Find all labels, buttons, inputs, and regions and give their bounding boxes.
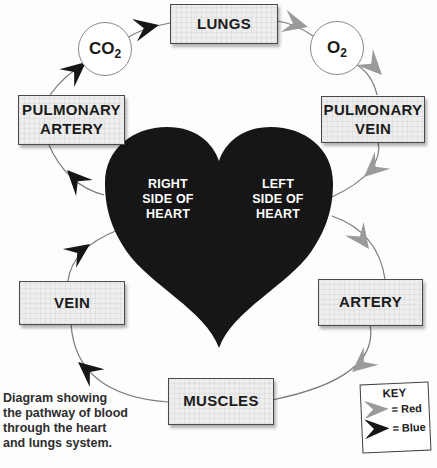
flow-line-vein-to-heart — [68, 230, 118, 281]
flow-arrow-heart-to-pulmonary-artery-icon — [59, 162, 93, 196]
blue-arrow-icon — [363, 418, 391, 439]
node-o2-circle: O2 — [310, 21, 364, 75]
node-lungs: LUNGS — [170, 4, 278, 44]
node-pulmonary-artery-label-line1: PULMONARY — [22, 101, 121, 120]
node-vein-label: VEIN — [54, 294, 90, 313]
node-muscles: MUSCLES — [168, 378, 274, 425]
heart-shape — [105, 127, 333, 348]
flow-arrow-heart-to-artery-icon — [345, 222, 378, 256]
node-vein: VEIN — [19, 281, 125, 325]
flow-arrow-pulmonary-vein-to-heart-icon — [356, 152, 390, 186]
flow-arrow-artery-to-muscles-icon — [345, 347, 379, 381]
key-legend: KEY = Red = Blue — [360, 382, 432, 454]
caption-line: Diagram showing — [3, 391, 128, 406]
node-pulmonary-vein-label-line2: VEIN — [355, 120, 391, 139]
caption-line: and lungs system. — [3, 436, 128, 451]
flow-line-artery-to-muscles — [272, 324, 371, 400]
flow-arrow-lungs-to-o2-icon — [281, 10, 311, 38]
heart-left-side-label: LEFT SIDE OF HEART — [245, 177, 311, 222]
caption-line: the pathway of blood — [3, 406, 128, 421]
flow-arrow-co2-to-lungs-icon — [132, 14, 161, 42]
node-co2-circle: CO2 — [78, 22, 132, 76]
node-pulmonary-artery-label-line2: ARTERY — [40, 120, 103, 139]
diagram-caption: Diagram showing the pathway of blood thr… — [3, 391, 128, 451]
caption-line: through the heart — [3, 421, 128, 436]
flow-arrow-muscles-to-vein-icon — [71, 353, 105, 387]
co2-label: CO2 — [89, 39, 121, 59]
o2-label: O2 — [327, 38, 347, 58]
flow-line-heart-to-artery — [332, 216, 385, 279]
flow-arrow-vein-to-heart-icon — [63, 235, 97, 268]
key-row-red: = Red — [361, 399, 429, 419]
node-pulmonary-vein: PULMONARY VEIN — [321, 96, 425, 143]
node-artery: ARTERY — [318, 279, 423, 326]
node-artery-label: ARTERY — [339, 293, 402, 312]
key-blue-label: = Blue — [392, 421, 426, 434]
key-red-label: = Red — [391, 401, 422, 414]
red-arrow-icon — [362, 400, 390, 418]
node-pulmonary-vein-label-line1: PULMONARY — [324, 101, 423, 120]
node-lungs-label: LUNGS — [197, 15, 251, 34]
node-muscles-label: MUSCLES — [183, 392, 258, 411]
diagram-canvas: LUNGS PULMONARY ARTERY PULMONARY VEIN VE… — [0, 0, 437, 468]
node-pulmonary-artery: PULMONARY ARTERY — [18, 95, 125, 145]
key-row-blue: = Blue — [362, 417, 430, 440]
heart-right-side-label: RIGHT SIDE OF HEART — [135, 177, 201, 222]
